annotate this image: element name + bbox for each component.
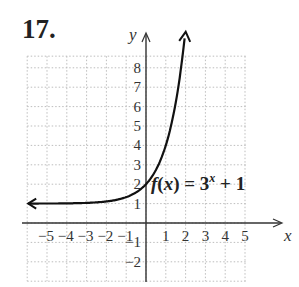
- x-axis-label: x: [283, 226, 292, 245]
- exponential-graph: −5−4−3−2−11234587654321−1−2 xyf(x) = 3x …: [0, 0, 299, 287]
- axes: [22, 33, 282, 282]
- x-tick-label: 2: [182, 228, 190, 244]
- function-label: f(x) = 3x + 1: [151, 171, 245, 195]
- x-tick-label: 1: [162, 228, 170, 244]
- x-tick-label: 4: [221, 228, 229, 244]
- y-tick-label: −2: [125, 254, 141, 270]
- y-tick-label: 7: [134, 79, 142, 95]
- y-tick-label: 3: [134, 157, 142, 173]
- x-tick-label: −3: [78, 228, 94, 244]
- y-tick-label: 6: [134, 99, 142, 115]
- x-tick-label: −4: [58, 228, 74, 244]
- x-tick-label: 3: [202, 228, 210, 244]
- x-tick-label: 5: [241, 228, 249, 244]
- y-tick-label: −1: [125, 234, 141, 250]
- y-tick-label: 8: [134, 60, 142, 76]
- axis-labels: xyf(x) = 3x + 1: [127, 25, 292, 245]
- y-tick-label: 4: [134, 137, 142, 153]
- y-tick-label: 1: [134, 196, 142, 212]
- y-tick-label: 5: [134, 118, 142, 134]
- x-tick-label: −2: [97, 228, 113, 244]
- y-axis-label: y: [127, 25, 137, 44]
- x-tick-label: −5: [38, 228, 54, 244]
